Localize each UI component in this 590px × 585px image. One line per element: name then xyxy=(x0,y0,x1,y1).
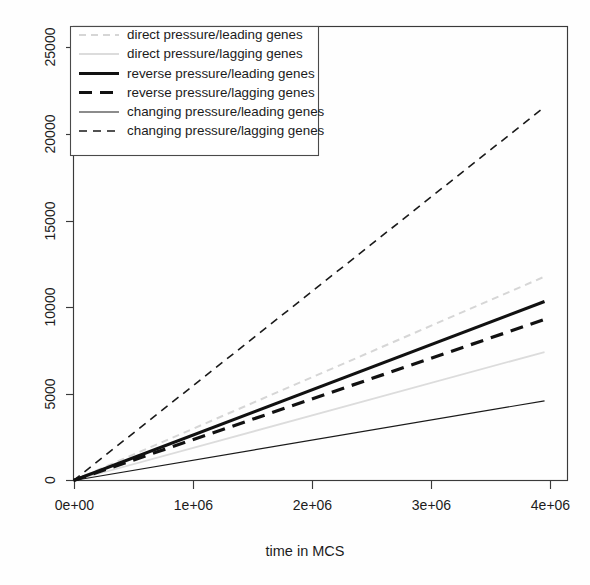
x-tick-label: 2e+06 xyxy=(293,497,333,513)
x-tick-label: 1e+06 xyxy=(174,497,214,513)
legend-label: reverse pressure/leading genes xyxy=(127,66,315,81)
x-tick-label: 3e+06 xyxy=(412,497,452,513)
y-tick-label: 15000 xyxy=(42,201,58,240)
legend-label: reverse pressure/lagging genes xyxy=(127,85,315,100)
series-line xyxy=(74,277,545,481)
y-tick-label: 10000 xyxy=(42,287,58,326)
series-line xyxy=(74,352,545,480)
y-tick-label: 20000 xyxy=(42,114,58,153)
x-axis-ticks xyxy=(75,481,551,490)
legend-label: direct pressure/leading genes xyxy=(127,27,303,42)
legend-label: changing pressure/leading genes xyxy=(127,104,325,119)
x-tick-label: 4e+06 xyxy=(531,497,571,513)
series-line xyxy=(74,319,545,480)
line-chart-canvas: 0 5000 10000 15000 20000 25000 0e+00 1e+… xyxy=(0,0,590,585)
chart-figure: 0 5000 10000 15000 20000 25000 0e+00 1e+… xyxy=(0,0,590,585)
x-axis-title: time in MCS xyxy=(266,543,345,559)
legend-label: changing pressure/lagging genes xyxy=(127,123,325,138)
legend: direct pressure/leading genesdirect pres… xyxy=(71,27,325,156)
x-axis-tick-labels: 0e+00 1e+06 2e+06 3e+06 4e+06 xyxy=(55,497,571,513)
series-line xyxy=(74,301,545,480)
y-axis-tick-labels: 0 5000 10000 15000 20000 25000 xyxy=(42,27,58,484)
y-tick-label: 0 xyxy=(42,476,58,484)
series-line xyxy=(74,401,545,481)
y-tick-label: 25000 xyxy=(42,27,58,66)
series-line xyxy=(74,107,545,480)
legend-label: direct pressure/lagging genes xyxy=(127,46,303,61)
y-tick-label: 5000 xyxy=(42,378,58,409)
series-layer xyxy=(74,107,545,480)
x-tick-label: 0e+00 xyxy=(55,497,95,513)
